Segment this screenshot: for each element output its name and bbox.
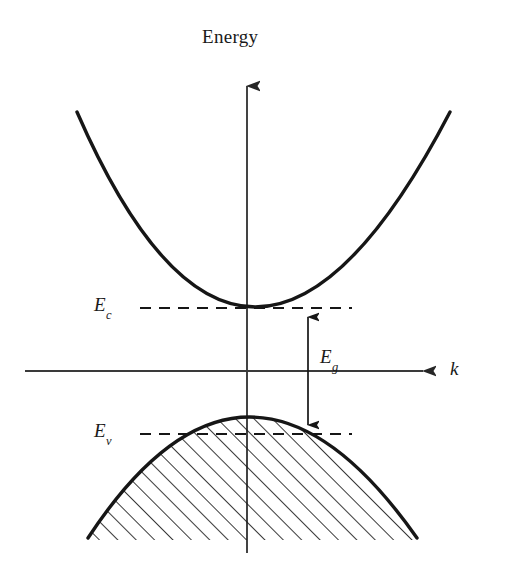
ec-level-label: Ec: [94, 294, 111, 319]
ev-level-label: Ev: [94, 420, 111, 445]
wavevector-axis-label: k: [450, 358, 458, 380]
bandgap-label: Eg: [320, 346, 338, 371]
ec-symbol: E: [94, 294, 106, 315]
eg-subscript: g: [332, 360, 338, 374]
ev-subscript: v: [106, 434, 112, 448]
ev-symbol: E: [94, 420, 106, 441]
energy-axis-label: Energy: [202, 26, 258, 48]
eg-symbol: E: [320, 346, 332, 367]
band-diagram-figure: Energy k Ec Ev Eg: [0, 0, 515, 580]
valence-band-fill: [88, 417, 417, 560]
ec-subscript: c: [106, 308, 112, 322]
band-diagram-canvas: [0, 0, 515, 580]
conduction-band-curve: [77, 112, 450, 307]
